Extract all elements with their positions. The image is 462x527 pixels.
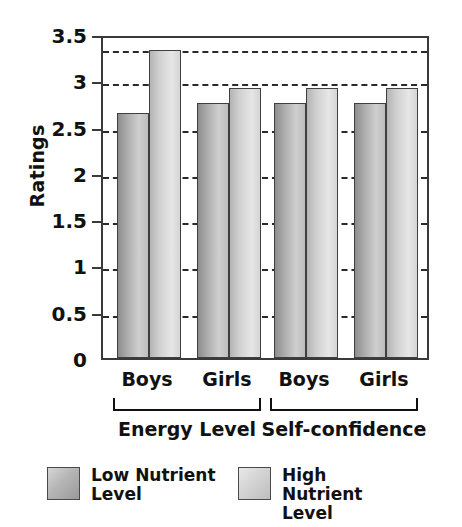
x-axis-label: Girls	[183, 368, 271, 390]
bar-high	[306, 88, 338, 358]
bar-shadow	[279, 99, 309, 352]
y-axis-tick-mark	[92, 129, 101, 131]
x-axis-label: Boys	[103, 368, 191, 390]
y-axis-tick-mark	[92, 36, 101, 38]
y-axis-tick-label: 3	[27, 72, 87, 92]
chart-legend: Low Nutrient LevelHigh Nutrient Level	[0, 466, 462, 524]
y-axis-tick-mark	[92, 267, 101, 269]
bar-shadow	[359, 99, 389, 352]
y-axis-tick-mark	[92, 175, 101, 177]
legend-label: High Nutrient Level	[282, 466, 412, 523]
bar-low	[197, 103, 229, 358]
y-axis-tick-mark	[92, 221, 101, 223]
x-axis-label: Boys	[260, 368, 348, 390]
plot-area	[101, 36, 429, 360]
bar-high	[386, 88, 418, 358]
y-axis-tick-label: 2	[27, 165, 87, 185]
legend-swatch-high	[238, 467, 271, 500]
bar-low	[117, 113, 149, 358]
bar-shadow	[391, 84, 421, 352]
y-axis-tick-label: 0	[27, 350, 87, 370]
bar-low	[274, 103, 306, 358]
bar-shadow	[154, 46, 184, 352]
legend-item[interactable]: High Nutrient Level	[238, 466, 412, 523]
bar-high	[229, 88, 261, 358]
bar-shadow	[311, 84, 341, 352]
group-bracket	[270, 398, 418, 411]
y-axis-tick-label: 2.5	[27, 119, 87, 139]
bar-chart-figure: Ratings 3.532.521.510.50 BoysGirlsBoysGi…	[0, 0, 462, 527]
x-axis-label: Girls	[340, 368, 428, 390]
bar-shadow	[234, 84, 264, 352]
legend-swatch-low	[47, 467, 80, 500]
bar-shadow	[122, 109, 152, 352]
y-axis-tick-label: 1.5	[27, 211, 87, 231]
bar-shadow	[202, 99, 232, 352]
bar-low	[354, 103, 386, 358]
bar-high	[149, 50, 181, 358]
y-axis-tick-label: 0.5	[27, 304, 87, 324]
y-axis-tick-mark	[92, 314, 101, 316]
group-bracket	[113, 398, 261, 411]
legend-item[interactable]: Low Nutrient Level	[47, 466, 221, 504]
y-axis-tick-label: 1	[27, 257, 87, 277]
legend-label: Low Nutrient Level	[91, 466, 221, 504]
plot-inner	[103, 38, 427, 358]
y-axis-tick-mark	[92, 82, 101, 84]
group-label: Self-confidence	[245, 418, 443, 440]
y-axis-tick-label: 3.5	[27, 26, 87, 46]
